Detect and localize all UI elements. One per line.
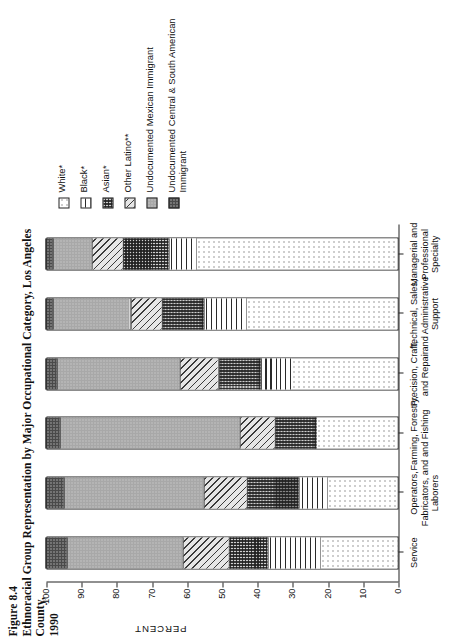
y-axis-tick [152,582,153,587]
bar-segment[interactable] [274,417,316,448]
legend-item-label: White* [56,164,67,192]
y-axis-label: PERCENT [134,623,186,634]
bar-segment[interactable] [203,298,245,329]
y-axis-tick [222,582,223,587]
legend-item[interactable]: Asian* [100,8,113,208]
y-axis-tick [116,582,117,587]
plot-area: 0102030405060708090100ServiceOperators,F… [46,224,398,582]
bar-segment[interactable] [168,238,196,269]
y-axis-tick-label: 10 [357,588,367,612]
plot-region: 0102030405060708090100ServiceOperators,F… [46,224,418,582]
rotated-figure-stage: Figure 8.4 Ethnoracial Group Representat… [0,0,455,644]
bar-segment[interactable] [327,477,397,508]
figure-number: Figure 8.4 [6,206,20,636]
y-axis-tick [398,582,399,587]
x-axis-tick [398,372,403,373]
y-axis-tick-label: 40 [251,588,261,612]
legend-item-label: Other Latino** [122,133,133,192]
stacked-bar[interactable] [46,357,398,390]
bar-segment[interactable] [218,358,260,389]
y-axis-tick-label: 80 [110,588,120,612]
legend-item[interactable]: Undocumented Mexican Immigrant [144,8,157,208]
x-axis-tick [398,313,403,314]
bar-segment[interactable] [196,238,397,269]
bar-segment[interactable] [91,238,123,269]
y-axis-tick [257,582,258,587]
bar-segment[interactable] [59,417,239,448]
legend-item-label: Undocumented Central & South American Im… [166,8,187,192]
bar-segment[interactable] [246,477,299,508]
figure-page: Figure 8.4 Ethnoracial Group Representat… [0,0,455,644]
legend-item-label: Undocumented Mexican Immigrant [144,47,155,192]
x-axis-category-label: Managerial andProfessionalSpecialty [408,206,440,302]
legend-swatch-white [58,197,69,208]
bar-segment[interactable] [246,298,397,329]
y-axis-tick-label: 60 [181,588,191,612]
y-axis-tick [292,582,293,587]
stacked-bar[interactable] [46,476,398,509]
y-axis-tick [328,582,329,587]
legend-item-label: Asian* [100,165,111,192]
legend-item[interactable]: Black* [78,8,91,208]
bar-segment[interactable] [45,537,66,568]
bar-segment[interactable] [66,537,182,568]
bar-segment[interactable] [52,238,91,269]
bar-segment[interactable] [56,358,179,389]
legend-swatch-undocumented-central-south-american [168,197,179,208]
bar-segment[interactable] [52,298,129,329]
stacked-bar[interactable] [46,237,398,270]
y-axis-tick-label: 50 [216,588,226,612]
y-axis-tick-label: 90 [75,588,85,612]
x-axis-line [398,224,399,582]
bar-segment[interactable] [161,298,203,329]
bar-segment[interactable] [320,537,397,568]
bar-segment[interactable] [267,537,320,568]
legend-item[interactable]: White* [56,8,69,208]
bar-segment[interactable] [291,358,397,389]
y-axis-tick [46,582,47,587]
bar-segment[interactable] [316,417,397,448]
x-axis-tick [398,551,403,552]
bar-segment[interactable] [228,537,267,568]
legend-swatch-asian [102,197,113,208]
bar-segment[interactable] [179,358,218,389]
y-axis-tick-label: 100 [40,588,50,612]
y-axis-tick-label: 30 [286,588,296,612]
chart-legend: White*Black*Asian*Other Latino**Undocume… [56,8,197,208]
y-axis-tick-label: 0 [392,588,402,612]
x-axis-tick [398,432,403,433]
legend-swatch-other-latino [124,197,135,208]
y-axis-tick-label: 20 [322,588,332,612]
legend-swatch-black [80,197,91,208]
stacked-bar[interactable] [46,297,398,330]
y-axis-tick-label: 70 [146,588,156,612]
stacked-bar[interactable] [46,416,398,449]
x-axis-tick [398,253,403,254]
x-axis-tick [398,492,403,493]
legend-swatch-undocumented-mexican [146,197,157,208]
bar-segment[interactable] [182,537,228,568]
y-axis-tick [187,582,188,587]
bar-segment[interactable] [203,477,245,508]
y-axis-tick [363,582,364,587]
bar-segment[interactable] [63,477,204,508]
bar-segment[interactable] [45,417,59,448]
figure-title-line-1: Ethnoracial Group Representation by Majo… [20,206,47,636]
bar-segment[interactable] [45,298,52,329]
stacked-bar[interactable] [46,536,398,569]
bar-segment[interactable] [45,477,63,508]
bar-segment[interactable] [260,358,292,389]
bar-segment[interactable] [298,477,326,508]
bar-segment[interactable] [239,417,274,448]
bar-segment[interactable] [45,358,56,389]
bar-segment[interactable] [122,238,168,269]
y-axis-tick [81,582,82,587]
legend-item[interactable]: Undocumented Central & South American Im… [166,8,187,208]
bar-segment[interactable] [130,298,162,329]
legend-item-label: Black* [78,165,89,192]
legend-item[interactable]: Other Latino** [122,8,135,208]
bar-segment[interactable] [45,238,52,269]
